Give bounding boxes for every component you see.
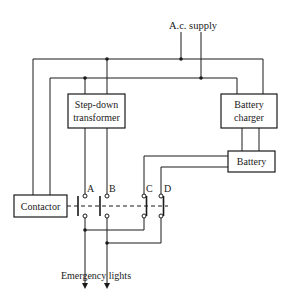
junction-dot [105, 57, 109, 61]
junction-dot [83, 76, 87, 80]
emergency-lighting-circuit-diagram: A.c. supply Step-down transformer Batter… [0, 0, 291, 298]
link-c-to-a [85, 218, 144, 230]
transformer-label-line2: transformer [73, 112, 120, 123]
charger-label-line1: Battery [234, 99, 263, 110]
emergency-lights-label: Emergency lights [61, 270, 131, 281]
charger-label-line2: charger [234, 112, 264, 123]
battery-lead-c [144, 156, 228, 194]
terminal-a-top [83, 194, 87, 198]
terminal-b-bottom [105, 214, 109, 218]
contact-label-c: C [146, 183, 153, 194]
arrow-down-icon [82, 283, 88, 289]
junction-dot [199, 76, 203, 80]
contact-label-a: A [87, 183, 95, 194]
junction-dot [83, 228, 87, 232]
contactor-label: Contactor [21, 201, 61, 212]
terminal-d-bottom [159, 214, 163, 218]
contact-label-d: D [164, 183, 171, 194]
terminal-d-top [159, 194, 163, 198]
transformer-label-line1: Step-down [75, 99, 118, 110]
terminal-c-bottom [142, 214, 146, 218]
terminal-b-top [105, 194, 109, 198]
junction-dot [179, 57, 183, 61]
supply-label: A.c. supply [169, 20, 218, 31]
battery-label: Battery [237, 156, 266, 167]
contact-label-b: B [109, 183, 116, 194]
terminal-a-bottom [83, 214, 87, 218]
terminal-c-top [142, 194, 146, 198]
junction-dot [105, 241, 109, 245]
arrow-down-icon [104, 283, 110, 289]
